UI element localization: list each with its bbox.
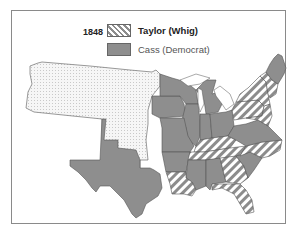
legend-swatch-democrat	[107, 43, 131, 56]
region-iowa	[152, 96, 186, 118]
region-florida	[212, 184, 254, 214]
region-arkansas	[162, 152, 190, 172]
legend-entry-democrat: Cass (Democrat)	[107, 43, 210, 56]
legend-label-whig: Taylor (Whig)	[138, 25, 198, 36]
legend-swatch-whig	[107, 24, 131, 37]
region-western-territory	[26, 62, 160, 168]
legend-year: 1848	[83, 27, 103, 37]
legend-entry-whig: Taylor (Whig)	[107, 24, 198, 37]
legend-label-democrat: Cass (Democrat)	[138, 44, 210, 55]
